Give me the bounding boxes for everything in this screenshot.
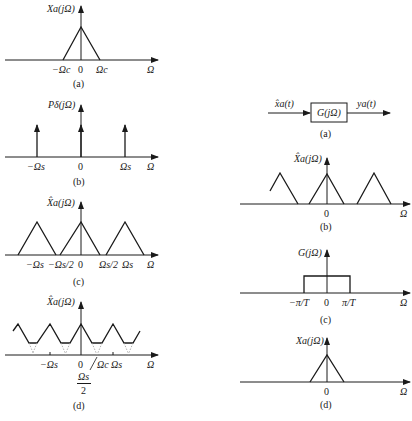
left-d-frac-den: 2 [81,385,86,396]
left-d-caption: (d) [73,400,85,411]
left-b-plot [5,105,158,157]
right-a-output-label: ya(t) [357,98,376,109]
left-d-tick-neg-s: −Ωs [40,359,58,370]
left-b-tick-neg: −Ωs [27,161,45,172]
left-a-tick-neg: −Ωc [52,64,70,75]
left-a-plot [5,6,158,60]
left-d-frac-num: Ωs [78,371,89,382]
left-c-tick-pos-s: Ωs [122,259,133,270]
left-b-xlabel: Ω [147,161,154,172]
right-a-input-label: x̂a(t) [275,98,294,109]
left-b-ylabel: Pδ(jΩ) [48,99,75,110]
right-c-tick-zero: 0 [324,297,329,308]
left-a-xlabel: Ω [147,64,154,75]
right-d-ylabel: Xa(jΩ) [296,335,324,346]
left-d-tick-s: Ωs [111,359,122,370]
left-d-ylabel: X̂a(jΩ) [47,296,75,307]
left-b-tick-pos: Ωs [120,161,131,172]
left-c-xlabel: Ω [147,259,154,270]
left-d-xlabel: Ω [147,359,154,370]
left-b-tick-zero: 0 [78,161,83,172]
left-c-caption: (c) [73,276,84,287]
left-a-tick-zero: 0 [78,64,83,75]
left-c-tick-neg-s: −Ωs [26,259,44,270]
right-d-plot [240,338,410,382]
left-c-plot [5,202,158,255]
left-d-frac-bar [77,383,91,384]
right-c-xlabel: Ω [400,297,407,308]
left-b-caption: (b) [73,176,85,187]
left-c-tick-neg-half: −Ωs/2 [48,259,74,270]
right-d-caption: (d) [320,399,332,410]
right-d-xlabel: Ω [400,386,407,397]
right-b-plot [240,158,410,204]
right-b-ylabel: X̂a(jΩ) [294,153,322,164]
left-d-tick-zero: 0 [78,359,83,370]
left-a-tick-pos: Ωc [96,64,108,75]
right-c-plot [240,250,410,293]
right-c-ylabel: G(jΩ) [298,247,322,258]
left-c-tick-zero: 0 [78,259,83,270]
right-b-xlabel: Ω [400,208,407,219]
left-c-tick-pos-half: Ωs/2 [99,259,118,270]
right-c-tick-neg: −π/T [289,297,309,308]
left-c-ylabel: X̂a(jΩ) [47,197,75,208]
left-a-caption: (a) [73,78,84,89]
right-b-caption: (b) [320,221,332,232]
right-a-block-label: G(jΩ) [317,107,341,118]
right-d-tick-zero: 0 [324,386,329,397]
right-a-caption: (a) [320,128,331,139]
right-c-tick-pos: π/T [342,297,355,308]
right-c-caption: (c) [320,314,331,325]
right-b-tick-zero: 0 [324,208,329,219]
left-a-ylabel: Xa(jΩ) [47,3,75,14]
left-d-tick-c: Ωc [97,359,109,370]
